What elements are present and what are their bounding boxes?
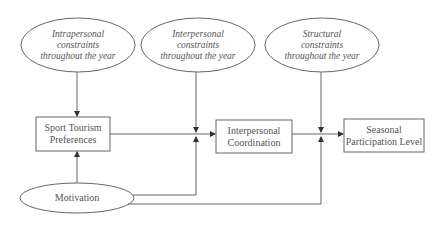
motivation-label: Motivation: [20, 183, 134, 213]
structural-label: Structural constraints throughout the ye…: [265, 24, 379, 66]
label-line: Interpersonal: [172, 29, 224, 40]
interpersonal-label: Interpersonal constraints throughout the…: [141, 24, 255, 66]
label-line: Coordination: [228, 137, 281, 149]
label-line: Intrapersonal: [52, 29, 104, 40]
label-line: constraints: [177, 40, 219, 51]
label-line: throughout the year: [160, 51, 235, 62]
label-line: Seasonal: [366, 124, 402, 136]
intrapersonal-label: Intrapersonal constraints throughout the…: [21, 24, 135, 66]
label-line: throughout the year: [40, 51, 115, 62]
label-line: throughout the year: [284, 51, 359, 62]
label-line: Sport Tourism: [44, 122, 101, 134]
preferences-label: Sport Tourism Preferences: [36, 117, 110, 151]
label-line: constraints: [57, 40, 99, 51]
label-line: Interpersonal: [228, 125, 281, 137]
label-line: constraints: [301, 40, 343, 51]
participation-label: Seasonal Participation Level: [344, 119, 424, 152]
label-line: Structural: [303, 29, 342, 40]
label-line: Motivation: [55, 192, 99, 204]
label-line: Preferences: [50, 134, 97, 146]
edge-motivation-moderator-1: [133, 137, 196, 195]
label-line: Participation Level: [346, 136, 422, 148]
coordination-label: Interpersonal Coordination: [216, 120, 292, 153]
